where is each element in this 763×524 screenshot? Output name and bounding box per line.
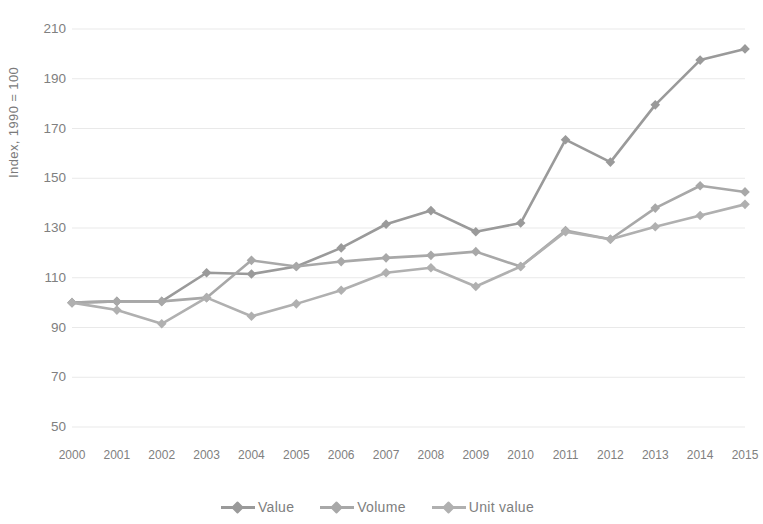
x-tick-2006: 2006 <box>317 448 365 462</box>
data-point <box>740 200 750 210</box>
x-tick-2015: 2015 <box>721 448 763 462</box>
legend-marker-icon <box>320 501 354 513</box>
x-tick-2011: 2011 <box>542 448 590 462</box>
legend-item-unit-value[interactable]: Unit value <box>432 499 534 515</box>
data-point <box>336 243 346 253</box>
data-point <box>292 262 302 272</box>
data-point <box>426 263 436 273</box>
x-tick-2010: 2010 <box>497 448 545 462</box>
legend-label: Volume <box>357 499 406 515</box>
legend-marker-icon <box>432 501 466 513</box>
series-value <box>67 44 750 307</box>
x-axis-tick-labels: 2000200120022003200420052006200720082009… <box>0 448 755 468</box>
x-tick-2004: 2004 <box>227 448 275 462</box>
x-tick-2013: 2013 <box>631 448 679 462</box>
series-line <box>72 49 745 303</box>
data-point <box>471 247 481 257</box>
series-volume <box>67 181 750 308</box>
x-tick-2007: 2007 <box>362 448 410 462</box>
data-point <box>426 251 436 261</box>
data-point <box>695 211 705 221</box>
chart-legend: ValueVolumeUnit value <box>0 494 755 520</box>
data-point <box>695 181 705 191</box>
series-unit-value <box>67 200 750 329</box>
x-tick-2008: 2008 <box>407 448 455 462</box>
data-point <box>650 222 660 232</box>
data-point <box>247 311 257 321</box>
data-point <box>740 44 750 54</box>
x-tick-2003: 2003 <box>183 448 231 462</box>
x-tick-2009: 2009 <box>452 448 500 462</box>
data-point <box>426 206 436 216</box>
legend-item-volume[interactable]: Volume <box>320 499 406 515</box>
data-point <box>292 299 302 309</box>
x-tick-2002: 2002 <box>138 448 186 462</box>
data-point <box>471 282 481 292</box>
legend-label: Unit value <box>469 499 534 515</box>
series-line <box>72 186 745 303</box>
legend-marker-icon <box>221 501 255 513</box>
x-tick-2000: 2000 <box>48 448 96 462</box>
data-point <box>336 257 346 267</box>
data-point <box>336 285 346 295</box>
data-point <box>561 135 571 145</box>
x-tick-2001: 2001 <box>93 448 141 462</box>
data-point <box>740 187 750 197</box>
data-point <box>112 305 122 315</box>
data-point <box>516 218 526 228</box>
legend-label: Value <box>258 499 294 515</box>
data-point <box>381 253 391 263</box>
legend-item-value[interactable]: Value <box>221 499 294 515</box>
data-point <box>67 298 77 308</box>
x-tick-2014: 2014 <box>676 448 724 462</box>
series-line <box>72 204 745 323</box>
x-tick-2012: 2012 <box>586 448 634 462</box>
data-point <box>112 297 122 307</box>
x-tick-2005: 2005 <box>272 448 320 462</box>
data-point <box>381 268 391 278</box>
